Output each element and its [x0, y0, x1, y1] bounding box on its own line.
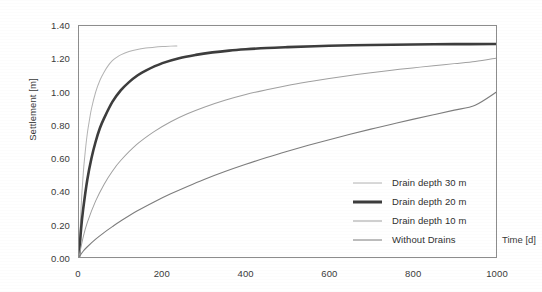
y-tick-label: 1.20	[36, 53, 70, 64]
chart-legend: Drain depth 30 mDrain depth 20 mDrain de…	[352, 173, 492, 249]
legend-line-swatch	[352, 235, 383, 245]
y-tick-label: 0.80	[36, 119, 70, 130]
x-tick-label: 0	[75, 268, 80, 279]
x-tick-label: 400	[238, 268, 254, 279]
legend-line-swatch	[352, 216, 383, 226]
legend-item: Drain depth 20 m	[352, 192, 492, 211]
y-tick-label: 0.40	[36, 186, 70, 197]
legend-item: Drain depth 10 m	[352, 211, 492, 230]
x-tick-label: 200	[154, 268, 170, 279]
y-tick-label: 1.40	[36, 20, 70, 31]
y-tick-label: 0.60	[36, 153, 70, 164]
legend-item: Drain depth 30 m	[352, 173, 492, 192]
settlement-time-chart: Settlement [m] 0.000.200.400.600.801.001…	[0, 0, 542, 292]
y-tick-label: 0.00	[36, 253, 70, 264]
legend-item-label: Drain depth 10 m	[383, 215, 466, 226]
y-tick-label: 1.00	[36, 86, 70, 97]
x-tick-label: 800	[405, 268, 421, 279]
y-tick-label: 0.20	[36, 219, 70, 230]
legend-item-label: Drain depth 20 m	[383, 196, 466, 207]
legend-item-label: Drain depth 30 m	[383, 177, 466, 188]
x-axis-title: Time [d]	[502, 234, 536, 245]
legend-item-label: Without Drains	[383, 234, 456, 245]
legend-item: Without Drains	[352, 230, 492, 249]
legend-line-swatch	[352, 197, 383, 207]
x-tick-label: 600	[321, 268, 337, 279]
legend-line-swatch	[352, 178, 383, 188]
x-tick-label: 1000	[486, 268, 508, 279]
